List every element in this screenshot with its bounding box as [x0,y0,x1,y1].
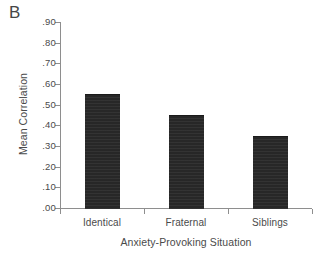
x-axis-tick [312,209,313,214]
x-axis-tick [228,209,229,214]
x-axis-category-label-siblings: Siblings [228,217,312,228]
bar-fraternal [169,115,204,209]
bar-identical [85,94,120,209]
y-axis-tick-label: .00 [16,203,56,213]
figure-panel-b: B .90 .80 .70 .60 .50 .40 .30 .20 .10 .0… [0,0,329,261]
y-axis-line [60,22,61,209]
bar-chart-plot-area: .90 .80 .70 .60 .50 .40 .30 .20 .10 .00 [0,0,329,261]
y-axis-title: Mean Correlation [17,39,29,189]
x-axis-category-label-identical: Identical [60,217,144,228]
x-axis-title: Anxiety-Provoking Situation [60,236,312,248]
x-axis-category-label-fraternal: Fraternal [144,217,228,228]
bar-siblings [253,136,288,209]
x-axis-tick [144,209,145,214]
y-axis-tick-label: .90 [16,17,56,27]
x-axis-tick [60,209,61,214]
